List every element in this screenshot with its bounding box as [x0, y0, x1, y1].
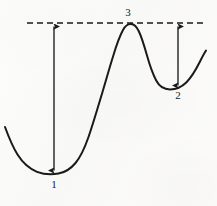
- potential-energy-diagram: 1 2 3: [0, 0, 217, 206]
- label-well-1: 1: [47, 179, 61, 190]
- label-well-2: 2: [171, 90, 185, 101]
- label-peak-3: 3: [121, 7, 135, 18]
- diagram-canvas: [0, 0, 217, 206]
